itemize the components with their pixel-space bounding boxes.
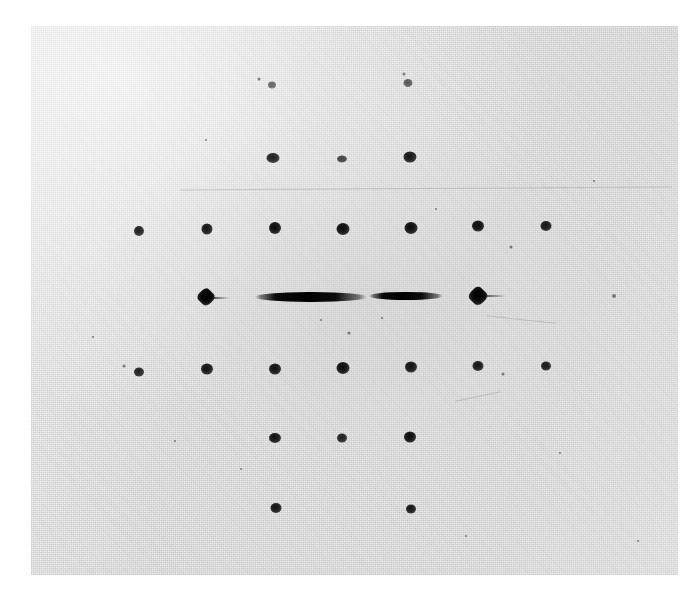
plate-scratch: [455, 391, 500, 402]
diffraction-spot: [337, 156, 347, 163]
spot-tail: [212, 297, 230, 299]
dust-speck: [92, 336, 94, 338]
diffraction-spot: [404, 152, 417, 163]
diffraction-figure: [0, 0, 698, 599]
diffraction-spot: [541, 221, 552, 231]
diffraction-spot: [406, 505, 416, 514]
diffraction-spot: [472, 221, 484, 232]
plate-scratch: [486, 315, 556, 323]
dust-speck: [403, 73, 406, 76]
dust-speck: [559, 452, 561, 454]
diffraction-spot: [134, 226, 144, 236]
diffraction-spot: [473, 361, 484, 371]
dust-speck: [637, 540, 639, 542]
diffraction-spot: [404, 79, 413, 87]
diffraction-spot: [467, 285, 490, 308]
spot-tail: [484, 295, 506, 297]
diffraction-spot: [269, 364, 281, 375]
dust-speck: [123, 365, 126, 368]
diffraction-spot: [195, 286, 216, 307]
dust-speck: [381, 317, 383, 319]
diffraction-spot: [404, 432, 416, 443]
diffraction-spot: [271, 503, 282, 513]
diffraction-spot: [405, 222, 418, 234]
diffraction-spot: [269, 222, 281, 234]
dust-speck: [435, 208, 437, 210]
diffraction-spot: [369, 292, 443, 300]
dust-speck: [612, 294, 616, 298]
diffraction-spot: [337, 223, 350, 235]
diffraction-spot: [201, 364, 213, 375]
diffraction-spot: [269, 433, 281, 443]
diffraction-spot: [337, 362, 350, 374]
diffraction-spot: [268, 82, 276, 89]
dust-speck: [348, 332, 351, 335]
dust-speck: [320, 319, 322, 321]
dust-speck: [240, 468, 242, 470]
dust-speck: [465, 535, 467, 537]
diffraction-spot: [267, 153, 280, 163]
dust-speck: [502, 373, 505, 376]
emulsion-exposure-gradient: [31, 26, 678, 575]
diffraction-spot: [134, 368, 144, 377]
dust-speck: [258, 78, 261, 81]
dust-speck: [510, 246, 513, 249]
dust-speck: [593, 180, 595, 182]
diffraction-spot: [405, 362, 417, 373]
diffraction-spot: [337, 434, 347, 443]
plate-scratch: [180, 186, 672, 190]
photographic-plate: [31, 26, 678, 575]
diffraction-spot: [255, 292, 367, 302]
dust-speck: [205, 139, 207, 141]
dust-speck: [174, 440, 176, 442]
diffraction-spot: [202, 224, 213, 235]
film-grain-texture: [31, 26, 678, 575]
diffraction-spot: [541, 362, 551, 371]
